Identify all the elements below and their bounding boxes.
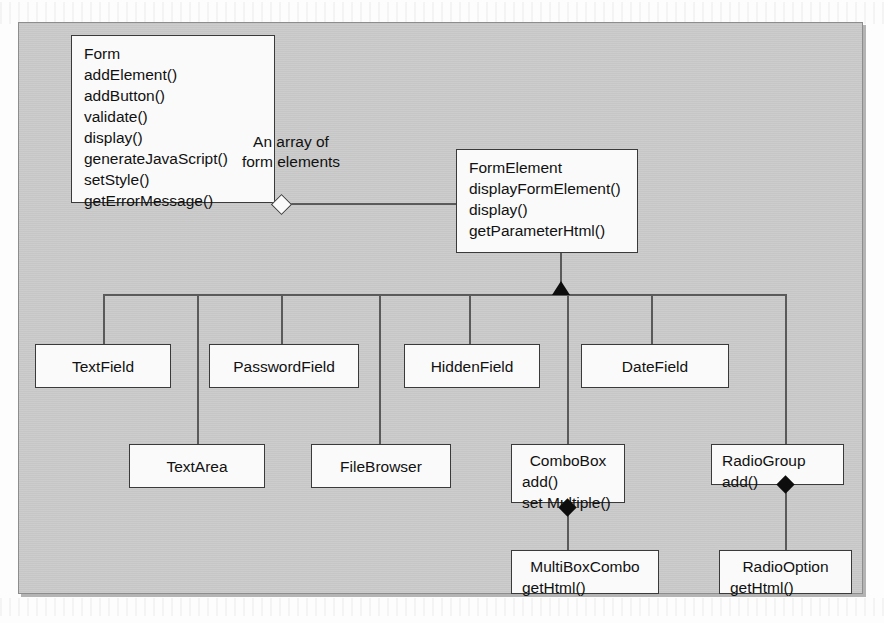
class-name-radiogroup: RadioGroup xyxy=(722,450,843,471)
uml-class-diagram-panel: Form addElement() addButton() validate()… xyxy=(18,22,863,594)
scan-artifact-top xyxy=(0,2,884,24)
class-method-form-2: validate() xyxy=(84,106,264,127)
class-box-textfield[interactable]: TextField xyxy=(35,344,171,388)
class-box-filebrowser[interactable]: FileBrowser xyxy=(311,444,451,488)
bus-drop-textfield xyxy=(103,294,105,344)
class-name-passwordfield: PasswordField xyxy=(233,356,335,377)
class-method-formelement-1: display() xyxy=(469,199,627,220)
association-label: An array of form elements xyxy=(215,132,367,172)
class-box-radiooption[interactable]: RadioOption getHtml() xyxy=(719,550,852,594)
bus-drop-textarea xyxy=(197,294,199,444)
class-box-combobox[interactable]: ComboBox add() set Multiple() xyxy=(511,444,625,503)
class-method-form-6: getErrorMessage() xyxy=(84,190,264,211)
class-method-form-1: addButton() xyxy=(84,85,264,106)
association-line-form-formelement xyxy=(283,203,475,205)
association-label-line2: form elements xyxy=(242,153,340,170)
class-box-form[interactable]: Form addElement() addButton() validate()… xyxy=(71,35,275,203)
class-box-datefield[interactable]: DateField xyxy=(581,344,729,388)
class-name-formelement: FormElement xyxy=(469,157,627,178)
inheritance-stem xyxy=(560,253,562,283)
class-box-hiddenfield[interactable]: HiddenField xyxy=(404,344,540,388)
class-name-textarea: TextArea xyxy=(166,456,227,477)
generalization-bus xyxy=(103,294,785,296)
class-method-combobox-0: add() xyxy=(512,471,624,492)
scanned-page-background: Form addElement() addButton() validate()… xyxy=(0,0,884,623)
class-box-multiboxcombo[interactable]: MultiBoxCombo getHtml() xyxy=(511,550,659,594)
class-name-form: Form xyxy=(84,43,264,64)
class-name-filebrowser: FileBrowser xyxy=(340,456,422,477)
class-method-multiboxcombo-0: getHtml() xyxy=(512,577,658,598)
class-method-radiooption-0: getHtml() xyxy=(720,577,851,598)
class-name-datefield: DateField xyxy=(622,356,688,377)
class-box-formelement[interactable]: FormElement displayFormElement() display… xyxy=(456,149,638,253)
bus-drop-radiogroup xyxy=(785,294,787,444)
class-name-radiooption: RadioOption xyxy=(720,556,851,577)
class-box-radiogroup[interactable]: RadioGroup add() xyxy=(711,444,844,485)
bus-drop-filebrowser xyxy=(379,294,381,444)
inheritance-triangle xyxy=(552,281,570,295)
scan-artifact-bottom xyxy=(0,598,884,616)
class-method-formelement-2: getParameterHtml() xyxy=(469,220,627,241)
class-method-form-0: addElement() xyxy=(84,64,264,85)
class-name-hiddenfield: HiddenField xyxy=(431,356,514,377)
class-box-passwordfield[interactable]: PasswordField xyxy=(209,344,359,388)
class-name-combobox: ComboBox xyxy=(512,450,624,471)
class-method-formelement-0: displayFormElement() xyxy=(469,178,627,199)
class-method-form-5: setStyle() xyxy=(84,169,264,190)
class-box-textarea[interactable]: TextArea xyxy=(129,444,265,488)
class-name-textfield: TextField xyxy=(72,356,134,377)
composition-line-radiogroup-radiooption xyxy=(785,485,787,550)
bus-drop-combobox xyxy=(567,294,569,444)
association-label-line1: An array of xyxy=(253,133,329,150)
bus-drop-passwordfield xyxy=(281,294,283,344)
bus-drop-hiddenfield xyxy=(469,294,471,344)
class-name-multiboxcombo: MultiBoxCombo xyxy=(512,556,658,577)
bus-drop-datefield xyxy=(651,294,653,344)
